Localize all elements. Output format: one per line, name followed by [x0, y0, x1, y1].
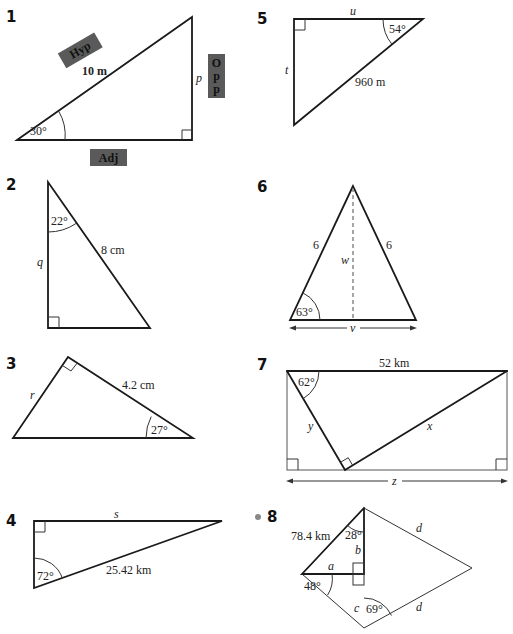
right-angle-marker	[294, 19, 305, 30]
side-label: q	[37, 255, 43, 269]
problem-number: 2	[6, 176, 16, 194]
svg-text:Adj: Adj	[99, 151, 118, 165]
angle-label: 72°	[37, 569, 54, 583]
hyp-length-label: 4.2 cm	[122, 378, 155, 392]
right-side-label: 6	[386, 238, 392, 252]
right-angle-marker	[48, 317, 59, 328]
rectangle	[287, 371, 507, 470]
height-label: w	[341, 253, 349, 267]
problem-7: 7 62° 52 km y x z	[257, 356, 508, 488]
problem-number: 3	[6, 355, 16, 373]
svg-text:p: p	[213, 69, 220, 83]
d-bottom-label: d	[416, 600, 423, 614]
right-angle-marker-upper	[353, 563, 364, 574]
side-label: s	[114, 507, 119, 521]
a-label: a	[328, 559, 334, 573]
side-label: t	[285, 63, 289, 77]
right-angle-marker-lower	[353, 574, 364, 585]
hyp-length-label: 78.4 km	[291, 529, 331, 543]
angle-top-label: 28°	[345, 528, 362, 542]
problem-1: 1 30° 10 m p Hyp O p p Adj	[6, 8, 225, 166]
side-label: r	[30, 388, 35, 402]
hyp-length-label: 10 m	[82, 64, 107, 78]
problem-6: 6 63° 6 6 w v	[257, 178, 417, 335]
left-side-label: 6	[313, 238, 319, 252]
right-angle-marker	[182, 130, 192, 140]
angle-label: 30°	[30, 124, 47, 138]
angle-label: 54°	[389, 22, 406, 36]
angle-label: 62°	[298, 375, 315, 389]
hyp-tag: Hyp	[58, 33, 103, 69]
base-label: v	[350, 321, 356, 335]
problem-number: 6	[257, 178, 267, 196]
angle-arc-left	[328, 574, 333, 595]
base-dimension-arrow	[286, 479, 508, 484]
right-angle-marker	[62, 363, 77, 371]
y-side-label: y	[307, 419, 314, 433]
problem-number: 5	[257, 10, 267, 28]
b-label: b	[355, 543, 361, 557]
problem-number: 8	[267, 508, 277, 526]
opp-tag: O p p	[208, 54, 225, 98]
top-side-label: u	[350, 4, 356, 18]
x-side-label: x	[426, 419, 433, 433]
hyp-length-label: 25.42 km	[106, 563, 152, 577]
right-triangle	[48, 182, 150, 328]
angle-arc	[59, 111, 66, 140]
top-length-label: 52 km	[379, 356, 410, 370]
exercise-diagrams: 1 30° 10 m p Hyp O p p Adj 2 22° 8 cm q	[0, 0, 513, 634]
problem-number: 1	[6, 8, 16, 26]
svg-text:p: p	[213, 82, 220, 96]
problem-number: 4	[6, 512, 16, 530]
adj-tag: Adj	[90, 149, 127, 166]
problem-3: 3 27° 4.2 cm r	[6, 355, 193, 438]
problem-5: 5 54° 960 m u t	[257, 4, 423, 125]
hyp-length-label: 960 m	[355, 75, 386, 89]
svg-text:O: O	[212, 56, 221, 70]
problem-8: 8 28° 48° 69° 78.4 km b a c d d	[255, 508, 472, 628]
c-label: c	[354, 601, 360, 615]
d-top-label: d	[416, 521, 423, 535]
right-angle-marker	[34, 521, 45, 532]
problem-2: 2 22° 8 cm q	[6, 176, 150, 328]
angle-label: 63°	[296, 305, 313, 319]
hyp-length-label: 8 cm	[101, 243, 125, 257]
opp-side-label: p	[195, 71, 202, 85]
right-angle-marker-right	[496, 459, 507, 470]
base-label: z	[391, 474, 397, 488]
problem-number: 7	[257, 356, 267, 374]
right-angle-marker-left	[287, 459, 298, 470]
inner-triangle	[287, 371, 507, 470]
bullet-icon	[255, 514, 261, 520]
angle-bottom-label: 69°	[366, 602, 383, 616]
problem-4: 4 72° 25.42 km s	[6, 507, 222, 588]
angle-label: 22°	[51, 214, 68, 228]
angle-label: 27°	[151, 423, 168, 437]
right-triangle	[17, 17, 192, 140]
angle-left-label: 48°	[304, 579, 321, 593]
